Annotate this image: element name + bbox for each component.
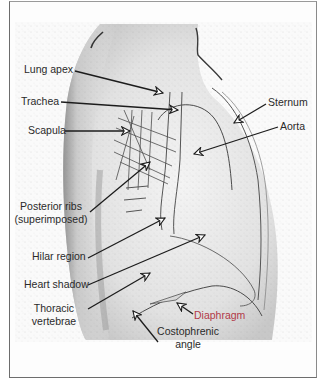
label-thoracic-vertebrae: Thoracic vertebrae	[24, 302, 84, 328]
label-costophrenic-angle-line1: Costophrenic	[150, 325, 226, 338]
label-sternum: Sternum	[268, 96, 308, 109]
label-trachea: Trachea	[21, 95, 59, 108]
label-aorta: Aorta	[280, 120, 305, 133]
label-thoracic-vertebrae-line2: vertebrae	[24, 315, 84, 328]
label-diaphragm: Diaphragm	[194, 309, 245, 322]
label-costophrenic-angle: Costophrenic angle	[150, 325, 226, 351]
label-posterior-ribs-line2: (superimposed)	[14, 213, 88, 226]
label-costophrenic-angle-line2: angle	[150, 338, 226, 351]
label-heart-shadow: Heart shadow	[24, 278, 89, 291]
label-posterior-ribs-line1: Posterior ribs	[14, 200, 88, 213]
label-hilar-region: Hilar region	[32, 250, 86, 263]
label-scapula: Scapula	[28, 124, 66, 137]
label-lung-apex: Lung apex	[24, 63, 73, 76]
label-thoracic-vertebrae-line1: Thoracic	[24, 302, 84, 315]
label-posterior-ribs: Posterior ribs (superimposed)	[14, 200, 88, 226]
